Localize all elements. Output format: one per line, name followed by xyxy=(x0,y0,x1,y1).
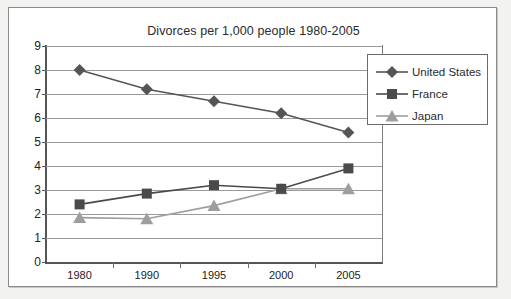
x-axis-tick-label: 2000 xyxy=(269,269,293,281)
x-axis-tick-mark xyxy=(113,262,114,268)
chart-legend: United StatesFranceJapan xyxy=(367,54,488,125)
page-frame: Divorces per 1,000 people 1980-2005 0123… xyxy=(0,0,511,299)
x-axis-tick-label: 2005 xyxy=(336,269,360,281)
y-axis-tick-label: 7 xyxy=(34,87,41,101)
data-point-marker xyxy=(342,126,354,138)
y-axis-tick-label: 4 xyxy=(34,159,41,173)
x-axis-tick-mark xyxy=(180,262,181,268)
legend-item-france[interactable]: France xyxy=(374,85,448,103)
legend-diamond-icon xyxy=(374,63,410,81)
y-axis-tick-label: 0 xyxy=(34,255,41,269)
y-axis-tick-label: 5 xyxy=(34,135,41,149)
plot-area: 0123456789 19801990199520002005 xyxy=(46,46,382,262)
y-axis-tick-label: 9 xyxy=(34,39,41,53)
data-point-marker xyxy=(74,64,86,76)
y-axis-tick-label: 6 xyxy=(34,111,41,125)
x-axis-tick-label: 1990 xyxy=(135,269,159,281)
legend-label: United States xyxy=(412,66,481,78)
y-axis-tick-label: 1 xyxy=(34,231,41,245)
x-axis-tick-label: 1995 xyxy=(202,269,226,281)
series-layer xyxy=(46,46,382,262)
data-point-marker xyxy=(75,199,85,209)
legend-label: France xyxy=(412,88,448,100)
series-united-states xyxy=(74,64,355,138)
data-point-marker xyxy=(142,189,152,199)
x-axis-tick-mark xyxy=(315,262,316,268)
legend-label: Japan xyxy=(412,110,443,122)
chart-title: Divorces per 1,000 people 1980-2005 xyxy=(9,24,498,38)
legend-square-icon xyxy=(374,85,410,103)
x-axis-tick-mark xyxy=(248,262,249,268)
y-axis-tick-label: 3 xyxy=(34,183,41,197)
x-axis-tick-label: 1980 xyxy=(67,269,91,281)
y-axis-tick-label: 8 xyxy=(34,63,41,77)
data-point-marker xyxy=(275,107,287,119)
legend-triangle-icon xyxy=(374,107,410,125)
data-point-marker xyxy=(276,184,286,194)
legend-item-japan[interactable]: Japan xyxy=(374,107,443,125)
x-axis-line xyxy=(45,262,383,264)
data-point-marker xyxy=(141,83,153,95)
data-point-marker xyxy=(343,163,353,173)
y-axis-tick-mark xyxy=(42,262,46,263)
data-point-marker xyxy=(208,95,220,107)
chart-paper: Divorces per 1,000 people 1980-2005 0123… xyxy=(8,7,497,287)
legend-item-united-states[interactable]: United States xyxy=(374,63,481,81)
data-point-marker xyxy=(209,180,219,190)
data-point-marker xyxy=(208,200,221,212)
y-axis-tick-label: 2 xyxy=(34,207,41,221)
